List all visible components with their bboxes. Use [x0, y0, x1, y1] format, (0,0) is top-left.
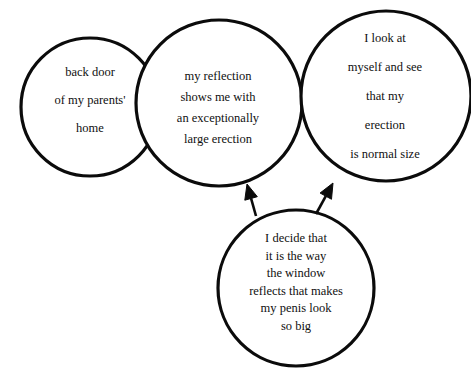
arrow-to-reality-check-circle	[316, 183, 333, 214]
reality-check-circle[interactable]	[301, 11, 471, 181]
diagram-svg	[0, 0, 471, 375]
arrow-head-icon	[245, 184, 258, 200]
arrow-shaft	[251, 198, 256, 216]
arrow-head-icon	[320, 183, 333, 199]
arrow-shaft	[316, 196, 326, 214]
rationalisation-circle[interactable]	[218, 210, 374, 366]
perception-circle[interactable]	[136, 20, 302, 186]
diagram-canvas: back door of my parents' home my reflect…	[0, 0, 471, 375]
arrow-to-perception-circle	[245, 184, 258, 216]
